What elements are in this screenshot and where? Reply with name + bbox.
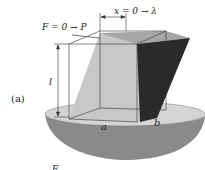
force-arrow bbox=[72, 35, 100, 38]
bottom-cut-label: F bbox=[51, 164, 59, 170]
displacement-label: x = 0 → λ bbox=[114, 6, 157, 16]
width-label: a bbox=[101, 121, 107, 132]
height-label: l bbox=[49, 76, 52, 87]
shear-deformation-diagram: (a) F = 0 → P x = 0 → λ l a b F bbox=[0, 0, 205, 170]
panel-label: (a) bbox=[11, 93, 25, 104]
depth-label: b bbox=[154, 117, 160, 128]
force-label: F = 0 → P bbox=[41, 22, 87, 32]
